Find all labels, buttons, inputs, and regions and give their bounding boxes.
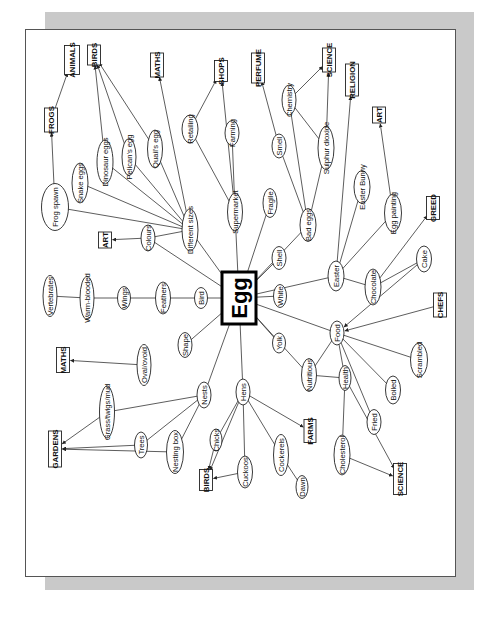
link-different_sizes-to-pelicans_egg — [129, 157, 190, 230]
concept-node-trees: Trees — [135, 432, 148, 458]
concept-node-egg-painting: Egg painting — [385, 192, 402, 234]
node-label: ART — [101, 232, 110, 248]
node-label: Dinosaur eggs — [101, 137, 110, 186]
node-label: Different sizes — [186, 206, 195, 254]
node-label: Egg painting — [389, 192, 398, 234]
subject-box-gardens: GARDENS — [49, 430, 62, 469]
node-label: Sulphur dioxide — [322, 122, 331, 174]
concept-node-supermarket: Supermarket — [228, 189, 243, 233]
node-label: SCIENCE — [325, 43, 334, 78]
node-label: Chemistry — [285, 83, 294, 117]
node-label: GREED — [429, 194, 438, 222]
node-label: Egg — [227, 277, 252, 319]
concept-node-warm-blooded: Warm-blooded — [80, 273, 94, 323]
node-label: Bad eggs — [304, 209, 313, 241]
link-food-to-scrambled — [337, 333, 419, 360]
arrow-chefs-to-food — [345, 305, 440, 331]
node-label: Shell — [275, 249, 284, 266]
mind-map-canvas: Frog spawnSnake eggsDinosaur eggsPelican… — [0, 0, 494, 620]
subject-box-religion: RELIGION — [346, 61, 359, 99]
concept-node-bird: Bird — [195, 288, 208, 309]
node-label: SHOPS — [217, 57, 226, 84]
node-label: Wings — [120, 287, 129, 308]
node-label: MATHS — [59, 346, 68, 373]
concept-node-scrambled: Scrambled — [411, 342, 428, 378]
subject-box-maths-left: MATHS — [57, 346, 70, 373]
concept-node-easter: Easter — [328, 261, 344, 291]
link-bad_eggs-to-chemistry — [289, 100, 308, 225]
node-label: Nesting box — [171, 432, 180, 472]
node-label: FROGS — [47, 106, 56, 134]
node-label: Easter Bunny — [358, 164, 367, 210]
concept-node-chicks: Chicks — [210, 428, 222, 451]
node-label: CHEFS — [436, 292, 445, 318]
node-label: ANIMALS — [68, 42, 77, 78]
concept-node-different-sizes: Different sizes — [182, 206, 198, 254]
arrow-easter-to-religion — [336, 97, 351, 276]
mind-map-figure: Frog spawnSnake eggsDinosaur eggsPelican… — [0, 0, 494, 620]
node-label: Colours — [144, 225, 153, 251]
arrow-trees-to-gardens — [62, 445, 141, 449]
node-label: Boiled — [389, 379, 398, 400]
subject-box-animals: ANIMALS — [65, 42, 80, 78]
concept-node-fried: Fried — [367, 410, 381, 435]
subject-box-science-bottom: SCIENCE — [394, 462, 407, 497]
arrow-hens-to-farms — [243, 392, 303, 427]
node-label: Fragile — [266, 191, 275, 214]
node-label: Cake — [420, 250, 429, 268]
node-label: Fried — [370, 413, 379, 430]
concept-node-feathers: Feathers — [156, 282, 171, 314]
node-label: Quail's egg — [151, 130, 160, 168]
node-label: BIRDS — [202, 468, 211, 492]
concept-node-food: Food — [330, 321, 344, 345]
concept-node-grass-twigs-mud: Grass/twigs/mud — [100, 384, 115, 441]
node-label: Cuckoos — [241, 457, 250, 487]
node-label: Snake eggs — [76, 163, 85, 203]
arrow-cake-to-food — [344, 259, 424, 327]
link-different_sizes-to-dinosaur_eggs — [105, 162, 190, 230]
concept-node-pelicans-egg: Pelican's egg — [122, 135, 136, 180]
node-label: Scrambled — [415, 342, 424, 378]
concept-node-hens: Hens — [236, 379, 250, 405]
node-label: GARDENS — [51, 430, 60, 469]
node-label: Nests — [200, 385, 209, 405]
concept-node-snake-eggs: Snake eggs — [72, 163, 88, 203]
node-label: Bird — [197, 291, 206, 305]
concept-node-bad-eggs: Bad eggs — [300, 209, 316, 242]
concept-node-fragile: Fragile — [263, 189, 277, 218]
node-label: Shape — [181, 334, 190, 356]
node-label: ART — [375, 107, 384, 123]
node-label: MATHS — [153, 51, 162, 78]
node-label: Retailing — [186, 114, 195, 144]
node-label: Farming — [228, 119, 237, 147]
concept-node-health: Health — [339, 366, 351, 391]
concept-node-sulphur-dioxide: Sulphur dioxide — [318, 122, 334, 174]
node-label: SCIENCE — [396, 462, 405, 497]
subject-box-farms: FARMS — [304, 417, 316, 444]
node-label: Dawn — [298, 477, 307, 496]
link-easter-to-egg_painting — [336, 213, 393, 276]
concept-node-cockerels: Cockerels — [274, 435, 289, 476]
node-label: Chicks — [212, 428, 221, 451]
node-label: Easter — [332, 265, 341, 287]
concept-node-easter-bunny: Easter Bunny — [354, 164, 370, 210]
concept-node-smell: Smell — [272, 134, 286, 158]
node-label: Frog spawn — [51, 187, 60, 227]
node-label: White — [276, 286, 285, 305]
node-label: BIRDS — [90, 43, 99, 67]
concept-node-dawn: Dawn — [296, 476, 308, 499]
concept-node-retailing: Retailing — [182, 114, 198, 144]
concept-node-boiled: Boiled — [386, 376, 401, 404]
subject-box-maths-top: MATHS — [151, 51, 164, 78]
node-label: Hens — [239, 383, 248, 401]
concept-node-frog-spawn: Frog spawn — [42, 184, 69, 231]
concept-node-chocolate: Chocolate — [365, 269, 381, 305]
node-label: Trees — [137, 435, 146, 454]
node-label: Oval/ovoid — [140, 347, 149, 383]
node-label: Grass/twigs/mud — [103, 384, 112, 441]
link-different_sizes-to-frog_spawn — [55, 207, 190, 230]
link-nests-to-grass_twigs_mud — [107, 395, 204, 412]
node-label: Pelican's egg — [125, 135, 134, 180]
concept-node-farming: Farming — [225, 119, 239, 147]
subject-box-art-right: ART — [373, 107, 386, 123]
